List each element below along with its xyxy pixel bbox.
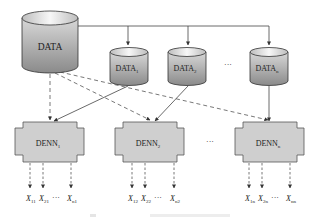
svg-text:X1n: X1n xyxy=(244,194,255,204)
svg-text:X11: X11 xyxy=(25,194,36,204)
output-arrows xyxy=(30,163,290,188)
output-labels: X11 X21 ··· Xn1 X12 X22 ··· Xn2 X1n X2n … xyxy=(25,193,296,204)
output-subscript: n1 xyxy=(72,199,78,204)
svg-text:X22: X22 xyxy=(140,194,151,204)
svg-text:Xn2: Xn2 xyxy=(169,194,180,204)
subset-cylinder-n: DATAn xyxy=(250,48,288,86)
denn-ellipsis: ··· xyxy=(206,137,214,146)
subset-cylinder-2: DATA2 xyxy=(168,48,206,86)
svg-text:DENN1: DENN1 xyxy=(36,139,61,149)
output-subscript: n2 xyxy=(175,199,181,204)
denn-box-n: DENNn xyxy=(235,122,304,162)
ensemble-diagram: DATA DATA1 DATA2 ··· DATAn DENN1 DENN2 ·… xyxy=(0,0,319,221)
subset-cylinder-1: DATA1 xyxy=(110,48,148,86)
denn-box-2: DENN2 xyxy=(115,122,184,162)
svg-text:DENN2: DENN2 xyxy=(136,139,161,149)
output-subscript: 21 xyxy=(44,199,50,204)
svg-text:DENNn: DENNn xyxy=(256,139,281,149)
output-ellipsis: ··· xyxy=(271,193,279,202)
output-subscript: 22 xyxy=(146,199,152,204)
output-ellipsis: ··· xyxy=(154,193,162,202)
svg-text:X2n: X2n xyxy=(257,194,268,204)
subset-label: DATA xyxy=(255,64,276,73)
subset-label: DATA xyxy=(173,64,194,73)
subset-label: DATA xyxy=(115,64,136,73)
solid-subset-links xyxy=(54,86,269,121)
distribution-lines xyxy=(78,26,269,45)
denn-label: DENN xyxy=(136,139,158,148)
dashed-data-links xyxy=(50,72,268,120)
output-ellipsis: ··· xyxy=(52,193,60,202)
output-subscript: 1n xyxy=(250,199,256,204)
svg-text:X12: X12 xyxy=(127,194,138,204)
source-data-label: DATA xyxy=(38,42,63,52)
svg-text:DATA1: DATA1 xyxy=(115,64,139,74)
output-subscript: nn xyxy=(291,199,297,204)
denn-box-1: DENN1 xyxy=(15,122,84,162)
svg-text:X21: X21 xyxy=(38,194,49,204)
output-subscript: 2n xyxy=(263,199,269,204)
svg-text:DATA2: DATA2 xyxy=(173,64,197,74)
source-data-cylinder: DATA xyxy=(22,11,78,73)
denn-label: DENN xyxy=(36,139,58,148)
svg-text:DATAn: DATAn xyxy=(255,64,279,74)
faded-caption xyxy=(90,214,230,217)
denn-label: DENN xyxy=(256,139,278,148)
subset-ellipsis: ··· xyxy=(224,60,232,69)
svg-text:Xn1: Xn1 xyxy=(66,194,77,204)
svg-text:Xnn: Xnn xyxy=(285,194,296,204)
output-subscript: 11 xyxy=(31,199,36,204)
output-subscript: 12 xyxy=(133,199,139,204)
